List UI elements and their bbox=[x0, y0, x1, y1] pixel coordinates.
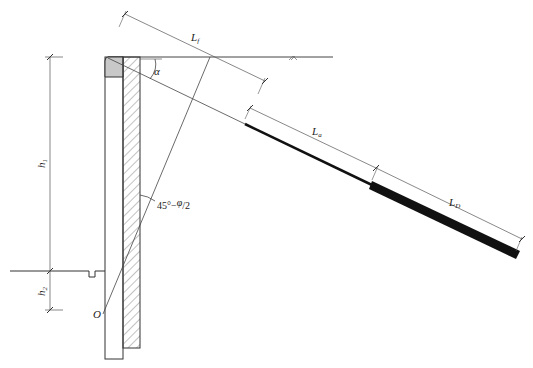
dimension-la: La bbox=[245, 105, 379, 171]
la-label: La bbox=[311, 125, 322, 139]
angle-alpha: α bbox=[140, 59, 162, 79]
dimension-h2: h2 bbox=[35, 271, 63, 313]
h2-label: h2 bbox=[35, 287, 49, 297]
excavation-ground-line bbox=[10, 271, 105, 277]
point-o-label: O bbox=[93, 308, 101, 320]
retaining-wall bbox=[105, 57, 140, 359]
failure-angle-annotation: 45°−φ/2 bbox=[140, 195, 190, 211]
dimension-h1: h1 bbox=[35, 54, 63, 274]
hatched-layer bbox=[123, 57, 140, 348]
diagram-canvas: α 45°−φ/2 O h1 h2 Lf bbox=[0, 0, 533, 368]
anchor-bond-zone bbox=[369, 181, 520, 259]
dimension-lf: Lf bbox=[119, 11, 268, 94]
h1-label: h1 bbox=[35, 159, 49, 168]
crown-beam bbox=[105, 57, 123, 77]
anchor bbox=[108, 58, 520, 259]
ld-label: LD bbox=[448, 196, 460, 210]
anchor-tendon bbox=[245, 124, 372, 185]
alpha-label: α bbox=[154, 65, 160, 77]
svg-text:45°−φ/2: 45°−φ/2 bbox=[157, 197, 190, 211]
lf-label: Lf bbox=[190, 31, 200, 45]
dimension-ld: LD bbox=[372, 166, 525, 251]
